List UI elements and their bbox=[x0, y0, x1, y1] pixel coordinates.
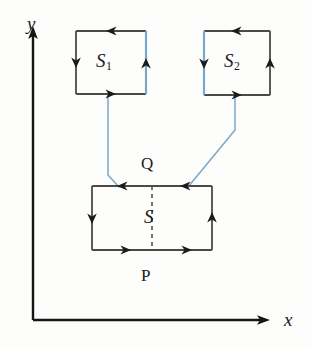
connector-right-line bbox=[188, 95, 235, 187]
connector-left-line bbox=[108, 94, 119, 187]
point-label-p: P bbox=[141, 267, 150, 284]
figure-canvas: y x S1 S2 S Q P bbox=[0, 0, 312, 350]
point-label-q: Q bbox=[141, 155, 153, 172]
region-label-s2-base: S bbox=[224, 50, 234, 71]
region-label-s1-subscript: 1 bbox=[106, 60, 112, 73]
region-label-s1: S1 bbox=[96, 51, 112, 73]
region-label-s1-base: S bbox=[96, 50, 106, 71]
y-axis-label: y bbox=[27, 14, 35, 33]
x-axis-label: x bbox=[284, 310, 292, 329]
region-label-s: S bbox=[144, 207, 154, 226]
figure-vector-graphics bbox=[0, 0, 312, 350]
region-label-s2: S2 bbox=[224, 51, 240, 73]
connector-group bbox=[108, 94, 235, 187]
region-label-s2-subscript: 2 bbox=[234, 60, 240, 73]
